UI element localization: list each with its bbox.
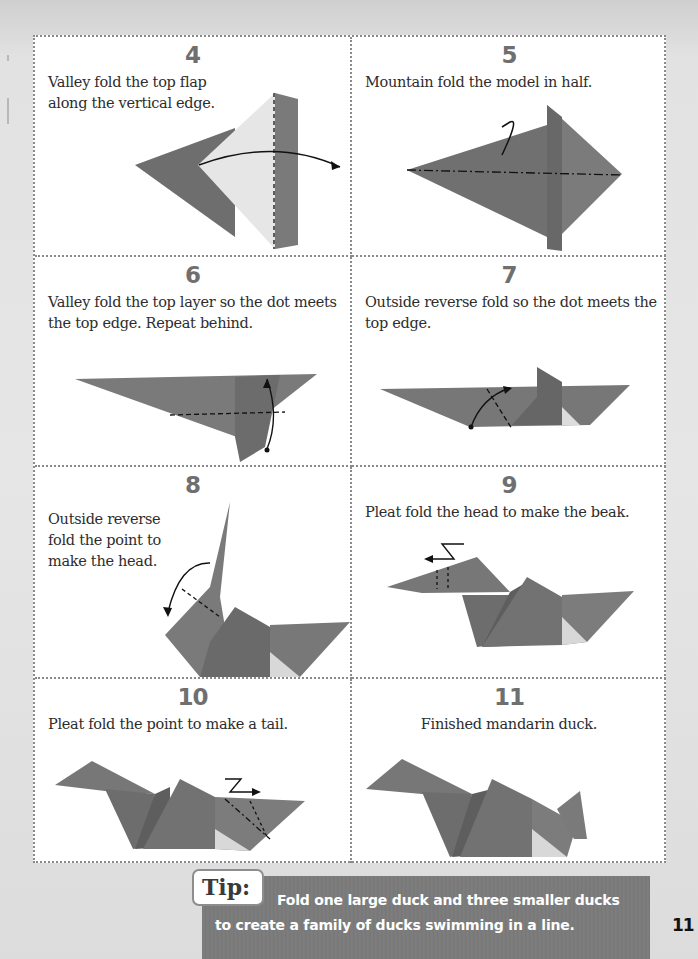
step-9-panel: 9 Pleat fold the head to make the beak. [352, 467, 666, 679]
step-8-panel: 8 Outside reverse fold the point to make… [35, 467, 352, 679]
step-10-panel: 10 Pleat fold the point to make a tail. [35, 679, 352, 863]
step-11-panel: 11 Finished mandarin duck. [352, 679, 666, 863]
instructions-grid: 4 Valley fold the top flap along the ver… [33, 35, 666, 863]
outside-reverse-fold-head-illustration [35, 467, 352, 679]
step-4-panel: 4 Valley fold the top flap along the ver… [35, 37, 352, 257]
tip-text: Fold one large duck and three smaller du… [215, 888, 645, 938]
outside-reverse-fold-illustration [352, 257, 666, 467]
valley-fold-dot-illustration [35, 257, 352, 467]
pleat-fold-beak-illustration [352, 467, 666, 679]
tip-label: Tip: [192, 869, 264, 906]
valley-fold-illustration [35, 37, 352, 257]
page-edge-mark [7, 55, 9, 61]
pleat-fold-tail-illustration [35, 679, 352, 863]
step-5-panel: 5 Mountain fold the model in half. [352, 37, 666, 257]
step-6-panel: 6 Valley fold the top layer so the dot m… [35, 257, 352, 467]
page-number: 11 [672, 915, 694, 935]
mountain-fold-illustration [352, 37, 666, 257]
finished-duck-illustration [352, 679, 666, 863]
page-edge-mark [7, 98, 9, 124]
step-7-panel: 7 Outside reverse fold so the dot meets … [352, 257, 666, 467]
